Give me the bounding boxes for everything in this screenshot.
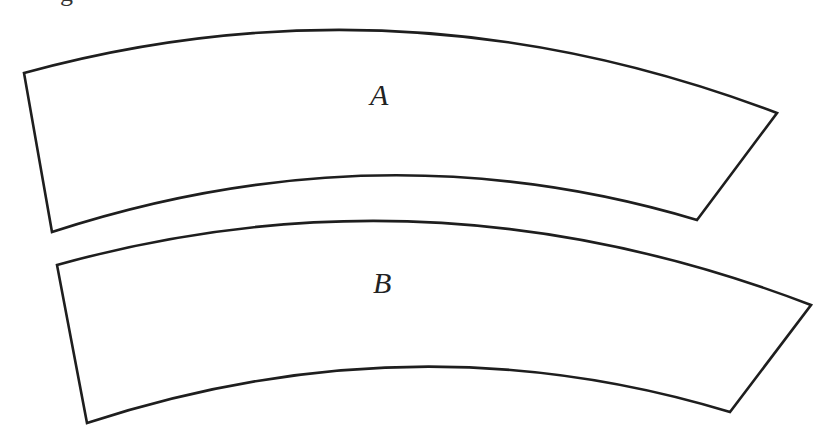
band-shape-b — [57, 221, 811, 423]
diagram-canvas — [0, 0, 833, 441]
shape-label-b: B — [373, 268, 391, 298]
shape-label-a: A — [370, 80, 388, 110]
band-shape-a — [24, 30, 777, 232]
